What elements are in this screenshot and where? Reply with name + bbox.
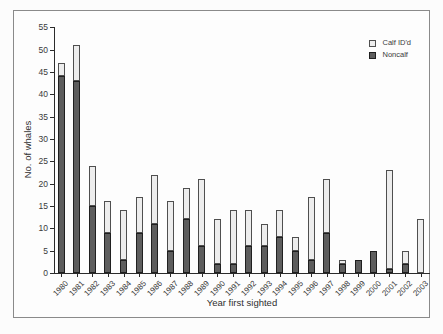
bar-segment-calf-idd-1980 bbox=[58, 63, 65, 76]
x-tick-mark bbox=[264, 274, 265, 277]
x-tick-mark bbox=[233, 274, 234, 277]
bar-segment-noncalf-1996 bbox=[308, 260, 315, 273]
x-tick-label-1985: 1985 bbox=[130, 279, 149, 298]
bar-segment-noncalf-2002 bbox=[402, 264, 409, 273]
bar-segment-calf-idd-1991 bbox=[230, 210, 237, 264]
bar-segment-noncalf-1984 bbox=[120, 260, 127, 273]
x-tick-label-1997: 1997 bbox=[317, 279, 336, 298]
x-tick-mark bbox=[92, 274, 93, 277]
bar-segment-calf-idd-1987 bbox=[167, 201, 174, 250]
y-tick-mark bbox=[50, 94, 54, 95]
x-tick-label-1988: 1988 bbox=[177, 279, 196, 298]
y-tick-mark bbox=[50, 184, 54, 185]
plot-area: 0510152025303540455055198019811982198319… bbox=[14, 11, 429, 317]
bar-segment-calf-idd-1998 bbox=[339, 260, 346, 264]
x-tick-mark bbox=[358, 274, 359, 277]
bar-segment-noncalf-1998 bbox=[339, 264, 346, 273]
bar-segment-noncalf-1991 bbox=[230, 264, 237, 273]
y-tick-mark bbox=[50, 50, 54, 51]
y-tick-label: 25 bbox=[26, 156, 48, 166]
bar-segment-noncalf-1989 bbox=[198, 246, 205, 273]
y-tick-mark bbox=[50, 72, 54, 73]
bar-segment-calf-idd-1996 bbox=[308, 197, 315, 260]
y-tick-label: 5 bbox=[26, 246, 48, 256]
x-tick-mark bbox=[389, 274, 390, 277]
bar-segment-calf-idd-1983 bbox=[104, 201, 111, 232]
bar-segment-calf-idd-1988 bbox=[183, 188, 190, 219]
y-tick-mark bbox=[50, 228, 54, 229]
bar-segment-noncalf-1988 bbox=[183, 219, 190, 273]
y-tick-label: 20 bbox=[26, 179, 48, 189]
y-tick-label: 10 bbox=[26, 223, 48, 233]
y-axis-line bbox=[54, 27, 55, 274]
bar-segment-noncalf-2001 bbox=[386, 269, 393, 273]
bar-segment-noncalf-1999 bbox=[355, 260, 362, 273]
y-tick-label: 40 bbox=[26, 89, 48, 99]
x-tick-label-1995: 1995 bbox=[286, 279, 305, 298]
x-tick-label-1991: 1991 bbox=[223, 279, 242, 298]
bar-segment-calf-idd-1982 bbox=[89, 166, 96, 206]
bar-segment-calf-idd-1994 bbox=[276, 210, 283, 237]
bar-segment-noncalf-2000 bbox=[370, 251, 377, 273]
y-tick-label: 0 bbox=[26, 268, 48, 278]
x-tick-mark bbox=[170, 274, 171, 277]
x-tick-mark bbox=[311, 274, 312, 277]
x-tick-mark bbox=[108, 274, 109, 277]
x-tick-mark bbox=[374, 274, 375, 277]
bar-segment-calf-idd-1992 bbox=[245, 210, 252, 246]
y-tick-label: 35 bbox=[26, 112, 48, 122]
x-tick-label-1980: 1980 bbox=[51, 279, 70, 298]
bar-segment-noncalf-1993 bbox=[261, 246, 268, 273]
x-tick-mark bbox=[186, 274, 187, 277]
x-tick-label-2000: 2000 bbox=[364, 279, 383, 298]
y-tick-label: 15 bbox=[26, 201, 48, 211]
y-tick-label: 30 bbox=[26, 134, 48, 144]
x-tick-mark bbox=[421, 274, 422, 277]
x-tick-mark bbox=[77, 274, 78, 277]
x-tick-mark bbox=[217, 274, 218, 277]
x-tick-label-1990: 1990 bbox=[208, 279, 227, 298]
x-tick-label-1989: 1989 bbox=[192, 279, 211, 298]
x-tick-label-1982: 1982 bbox=[83, 279, 102, 298]
bar-segment-noncalf-1987 bbox=[167, 251, 174, 273]
bar-segment-noncalf-1994 bbox=[276, 237, 283, 273]
bar-segment-calf-idd-1995 bbox=[292, 237, 299, 250]
bar-segment-noncalf-1985 bbox=[136, 233, 143, 273]
x-tick-mark bbox=[139, 274, 140, 277]
bar-segment-calf-idd-1990 bbox=[214, 219, 221, 264]
x-tick-mark bbox=[280, 274, 281, 277]
bar-segment-calf-idd-1985 bbox=[136, 197, 143, 233]
whale-sightings-figure: No. of whales Year first sighted Calf ID… bbox=[0, 0, 443, 334]
bar-segment-noncalf-1981 bbox=[73, 81, 80, 273]
x-tick-mark bbox=[155, 274, 156, 277]
y-tick-mark bbox=[50, 273, 54, 274]
x-tick-mark bbox=[61, 274, 62, 277]
x-tick-label-2002: 2002 bbox=[396, 279, 415, 298]
y-tick-label: 55 bbox=[26, 22, 48, 32]
bar-segment-noncalf-1982 bbox=[89, 206, 96, 273]
bar-segment-noncalf-1995 bbox=[292, 251, 299, 273]
y-tick-mark bbox=[50, 251, 54, 252]
x-tick-label-1981: 1981 bbox=[67, 279, 86, 298]
x-tick-label-1996: 1996 bbox=[302, 279, 321, 298]
x-tick-label-1999: 1999 bbox=[349, 279, 368, 298]
x-tick-mark bbox=[249, 274, 250, 277]
bar-segment-calf-idd-1993 bbox=[261, 224, 268, 246]
x-tick-label-1994: 1994 bbox=[270, 279, 289, 298]
bar-segment-calf-idd-1989 bbox=[198, 179, 205, 246]
x-tick-mark bbox=[327, 274, 328, 277]
bar-segment-calf-idd-1986 bbox=[151, 175, 158, 224]
bar-segment-calf-idd-1981 bbox=[73, 45, 80, 81]
bar-segment-calf-idd-2001 bbox=[386, 170, 393, 268]
chart-frame: No. of whales Year first sighted Calf ID… bbox=[13, 10, 430, 318]
x-tick-label-1983: 1983 bbox=[98, 279, 117, 298]
y-tick-mark bbox=[50, 161, 54, 162]
y-tick-mark bbox=[50, 117, 54, 118]
y-tick-label: 50 bbox=[26, 45, 48, 55]
x-tick-mark bbox=[405, 274, 406, 277]
bar-segment-noncalf-1983 bbox=[104, 233, 111, 273]
bar-segment-calf-idd-1997 bbox=[323, 179, 330, 233]
x-tick-label-1984: 1984 bbox=[114, 279, 133, 298]
bar-segment-calf-idd-2003 bbox=[417, 219, 424, 273]
x-tick-label-1987: 1987 bbox=[161, 279, 180, 298]
